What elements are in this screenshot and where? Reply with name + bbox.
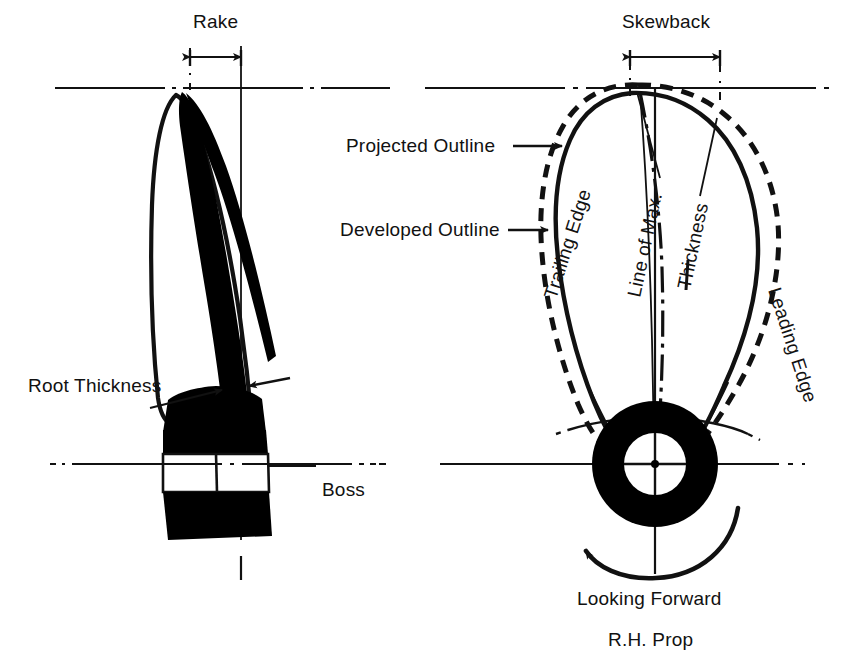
hub-boss-right: [592, 401, 718, 527]
projected-outline-label: Projected Outline: [346, 135, 495, 156]
leading-edge-label: Leading Edge: [764, 285, 821, 405]
developed-outline-label: Developed Outline: [340, 219, 500, 240]
skewback-label: Skewback: [622, 11, 710, 32]
propeller-geometry-diagram: Rake Skewback Projected Outline Develope…: [0, 0, 861, 663]
skewback-dimension: [630, 50, 720, 66]
rake-dimension: [190, 50, 241, 66]
root-thickness-label: Root Thickness: [28, 375, 161, 396]
blade-section-solid-left: [179, 92, 276, 424]
thickness-label: Thickness: [673, 201, 712, 291]
boss-left: [163, 430, 272, 540]
line-of-max-leader: [637, 92, 660, 178]
diagram-text-labels: Rake Skewback Projected Outline Develope…: [28, 11, 821, 650]
rh-prop-label: R.H. Prop: [608, 629, 693, 650]
boss-label: Boss: [322, 479, 365, 500]
developed-outline-curve: [541, 85, 779, 449]
trailing-edge-label: Trailing Edge: [540, 186, 595, 301]
diagram-page: Rake Skewback Projected Outline Develope…: [0, 0, 861, 663]
rake-label: Rake: [193, 11, 238, 32]
looking-forward-label: Looking Forward: [577, 588, 722, 609]
